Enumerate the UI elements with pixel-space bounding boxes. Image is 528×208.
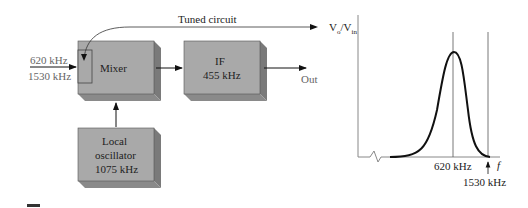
- mixer-label: Mixer: [100, 62, 127, 74]
- figure-mark: [27, 204, 40, 207]
- x-axis-with-break: [358, 151, 500, 162]
- diagram-canvas: Mixer IF 455 kHz Local oscillator 1075 k…: [0, 0, 528, 208]
- lo-label-2: oscillator: [95, 149, 136, 161]
- tuned-arrow-right-icon: [310, 24, 318, 30]
- input-freq-1530: 1530 kHz: [28, 70, 71, 82]
- x-axis-label: f: [497, 159, 502, 171]
- out-label: Out: [301, 73, 318, 85]
- marker-label-620: 620 kHz: [434, 160, 472, 172]
- if-freq-label: 455 kHz: [203, 69, 241, 81]
- marker-label-1530: 1530 kHz: [463, 176, 506, 188]
- y-axis-label: Vo/Vin: [329, 21, 357, 36]
- if-label: IF: [215, 55, 225, 67]
- input-freq-620: 620 kHz: [30, 54, 68, 66]
- tuned-circuit-label: Tuned circuit: [178, 13, 237, 25]
- lo-label-1: Local: [102, 135, 127, 147]
- lo-label-3: 1075 kHz: [95, 163, 138, 175]
- response-curve: [390, 52, 490, 157]
